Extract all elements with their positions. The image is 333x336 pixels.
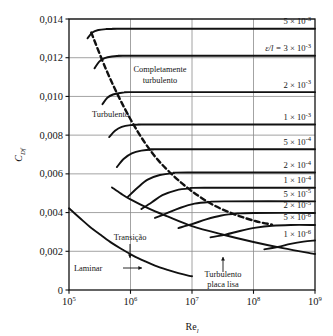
y-tick-label: 0,012 [39, 52, 63, 63]
annotation-transition: Transição [114, 233, 147, 242]
annotation-completely-turbulent-2: turbulento [143, 76, 177, 85]
y-tick-label: 0,004 [39, 207, 63, 218]
y-tick-label: 0,010 [39, 91, 63, 102]
friction-coefficient-chart: 00,0020,0040,0060,0080,0100,0120,0141051… [0, 0, 333, 336]
annotation-turbulent: Turbulento [92, 110, 129, 119]
y-tick-label: 0,002 [39, 246, 63, 257]
y-tick-label: 0,014 [39, 14, 63, 25]
y-tick-label: 0,006 [39, 168, 63, 179]
chart-svg: 00,0020,0040,0060,0080,0100,0120,0141051… [0, 0, 333, 336]
annotation-smooth-plate-2: placa lisa [207, 280, 239, 289]
y-tick-label: 0,008 [39, 130, 63, 141]
annotation-laminar: Laminar [74, 264, 103, 273]
y-tick-label: 0 [58, 285, 63, 296]
roughness-label: ε/l = 3 × 10-3 [265, 42, 312, 53]
annotation-completely-turbulent: Completamente [133, 65, 186, 74]
